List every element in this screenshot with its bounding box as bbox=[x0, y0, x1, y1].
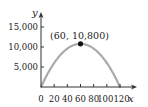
plot-area: xy0204060801001205,00010,00015,000(60, 1… bbox=[8, 7, 137, 104]
y-tick-label: 5,000 bbox=[14, 62, 38, 72]
x-tick-label: 0 bbox=[38, 94, 43, 104]
x-tick-label: 60 bbox=[75, 94, 86, 104]
x-tick-label: 100 bbox=[97, 94, 113, 104]
parabola-curve bbox=[41, 44, 120, 87]
parabola-chart: xy0204060801001205,00010,00015,000(60, 1… bbox=[0, 0, 148, 107]
x-tick-label: 40 bbox=[62, 94, 73, 104]
x-tick-label: 20 bbox=[49, 94, 60, 104]
y-tick-label: 15,000 bbox=[8, 22, 38, 32]
vertex-label: (60, 10,800) bbox=[50, 30, 109, 41]
x-tick-label: 120 bbox=[113, 94, 129, 104]
vertex-marker bbox=[78, 41, 83, 46]
y-axis-label: y bbox=[31, 7, 38, 18]
y-tick-label: 10,000 bbox=[8, 42, 38, 52]
